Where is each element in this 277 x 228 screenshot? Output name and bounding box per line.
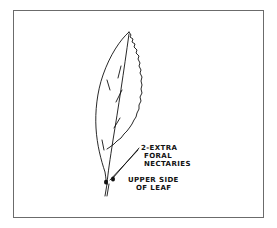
leaf-vein [114, 118, 120, 128]
leaf-petiole [105, 184, 107, 196]
leaf-vein [118, 66, 121, 78]
leaf-vein [102, 140, 104, 150]
label-line: OF LEAF [136, 184, 179, 192]
label-line: UPPER SIDE [128, 176, 179, 184]
annotation-nectaries: 2-EXTRA FORAL NECTARIES [141, 144, 191, 168]
label-line: NECTARIES [144, 160, 191, 168]
leaf-outline-right [107, 32, 142, 149]
nectary-gland-icon [104, 179, 108, 184]
label-line: 2-EXTRA [141, 144, 191, 152]
leaf-illustration [0, 0, 277, 228]
leaf-midrib [107, 34, 129, 184]
leaf-outline-left [96, 32, 129, 184]
nectary-gland-icon [111, 176, 115, 181]
leaf-vein [107, 80, 110, 90]
label-line: FORAL [144, 152, 191, 160]
annotation-upper-side: UPPER SIDE OF LEAF [128, 176, 179, 192]
